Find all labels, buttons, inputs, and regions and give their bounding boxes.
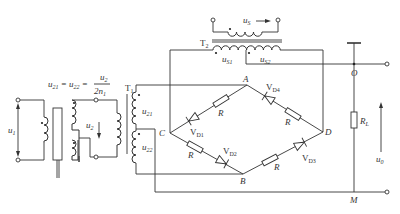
svg-text:T1: T1 bbox=[125, 83, 134, 94]
node-b: B bbox=[240, 176, 246, 186]
svg-text:R: R bbox=[273, 162, 280, 172]
svg-text:VD1: VD1 bbox=[190, 127, 204, 138]
diode-vd3 bbox=[293, 138, 307, 152]
t2-secondary bbox=[213, 46, 280, 50]
resistor-ca bbox=[213, 95, 229, 108]
t1-primary bbox=[117, 113, 121, 157]
svg-text:VD2: VD2 bbox=[223, 146, 237, 157]
bridge: R VD1 VD4 R R VD2 R bbox=[159, 74, 332, 186]
svg-text:R: R bbox=[187, 150, 194, 160]
svg-text:u2: u2 bbox=[86, 120, 94, 131]
svg-text:uS2: uS2 bbox=[260, 54, 271, 65]
svg-text:R: R bbox=[217, 108, 224, 118]
diode-vd4 bbox=[262, 92, 276, 106]
terminal-u2-top bbox=[94, 98, 98, 102]
svg-text:uS: uS bbox=[243, 15, 251, 26]
diode-vd1 bbox=[186, 112, 200, 126]
t2-primary bbox=[228, 32, 262, 36]
svg-text:u21: u21 bbox=[142, 106, 153, 117]
input-transformer-primary bbox=[44, 117, 48, 143]
node-c: C bbox=[159, 128, 166, 138]
node-a: A bbox=[242, 74, 249, 84]
terminal-o bbox=[385, 62, 389, 66]
input-transformer-secondary: u2 bbox=[72, 98, 117, 162]
terminal-m bbox=[385, 190, 389, 194]
svg-text:VD3: VD3 bbox=[302, 153, 316, 164]
svg-text:R: R bbox=[284, 117, 291, 127]
node-d: D bbox=[324, 127, 332, 137]
svg-text:u0: u0 bbox=[376, 154, 384, 165]
load-resistor-rl bbox=[351, 112, 357, 128]
svg-text:u1: u1 bbox=[8, 125, 16, 136]
circuit-diagram: u21 = u22 = u2 2n1 u1 bbox=[0, 0, 400, 214]
svg-text:VD4: VD4 bbox=[266, 82, 280, 93]
svg-text:u2: u2 bbox=[100, 72, 108, 83]
input-u1: u1 bbox=[8, 98, 48, 162]
output-load: RL O M u0 bbox=[347, 43, 389, 205]
node-m: M bbox=[349, 195, 358, 205]
svg-text:u22: u22 bbox=[142, 142, 153, 153]
input-transformer-core bbox=[53, 108, 62, 178]
svg-text:T2: T2 bbox=[200, 38, 209, 49]
terminal-u1-bottom bbox=[16, 158, 20, 162]
svg-text:u21 = u22 =: u21 = u22 = bbox=[48, 79, 88, 90]
t1-secondary-u21 bbox=[132, 92, 136, 124]
transformer-t1: T1 u21 u22 bbox=[117, 83, 385, 192]
svg-text:RL: RL bbox=[359, 116, 370, 127]
diode-vd2 bbox=[215, 155, 229, 169]
t1-secondary-u22 bbox=[132, 131, 136, 163]
node-o: O bbox=[351, 68, 358, 78]
formula: u21 = u22 = u2 2n1 bbox=[48, 72, 110, 97]
terminal-u1-top bbox=[16, 98, 20, 102]
terminal-u2-bottom bbox=[94, 155, 98, 159]
svg-text:uS1: uS1 bbox=[222, 54, 233, 65]
terminal-us-right bbox=[276, 18, 280, 22]
svg-text:2n1: 2n1 bbox=[94, 86, 106, 97]
terminal-us-left bbox=[211, 18, 215, 22]
